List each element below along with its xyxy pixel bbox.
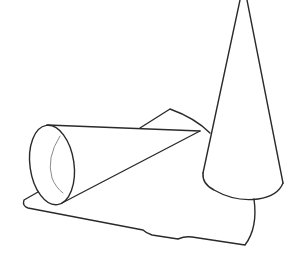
lying-cone-inner-arc — [50, 136, 63, 193]
lying-cone-bottom-edge — [62, 131, 200, 203]
upright-cone-right-side — [247, 0, 283, 183]
floor-shadow — [24, 192, 255, 245]
lying-cone-top-edge — [47, 125, 200, 131]
upright-cone-base — [203, 173, 283, 200]
cones-illustration — [0, 0, 308, 268]
drawing-canvas — [0, 0, 308, 268]
upright-cone-left-side — [203, 0, 240, 173]
